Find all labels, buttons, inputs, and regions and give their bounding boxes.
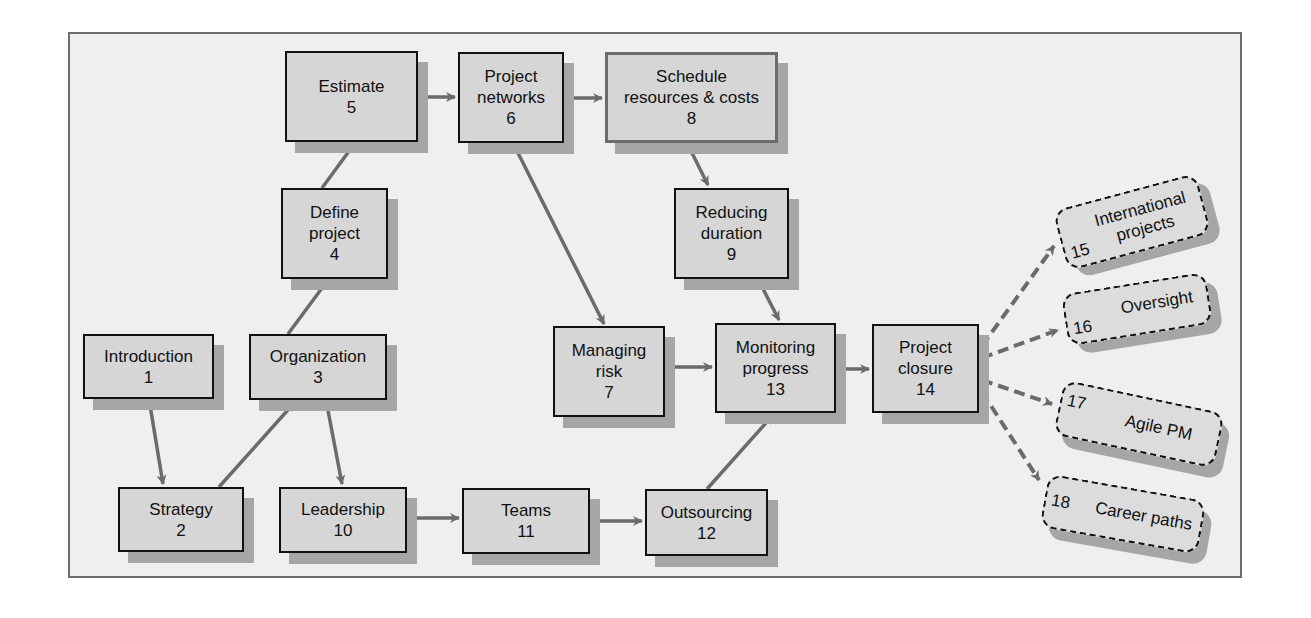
edge-3-4: [288, 280, 328, 334]
node-introduction: Introduction 1: [83, 334, 214, 399]
node-label: Organization: [270, 346, 366, 367]
node-label-line-2: closure: [898, 358, 953, 379]
edge-14-15: [982, 246, 1054, 346]
node-label-line-1: Reducing: [696, 202, 768, 223]
node-label-line-2: networks: [477, 87, 545, 108]
node-label: Introduction: [104, 346, 193, 367]
node-number: 10: [334, 520, 353, 541]
node-label-line-1: Project: [899, 337, 952, 358]
node-number: 12: [697, 523, 716, 544]
node-teams: Teams 11: [462, 488, 590, 554]
node-number: 11: [517, 521, 535, 542]
node-outsourcing: Outsourcing 12: [645, 489, 768, 556]
node-label-line-2: risk: [596, 361, 622, 382]
node-number: 1: [144, 367, 153, 388]
node-number: 9: [727, 244, 736, 265]
edge-9-13: [758, 279, 779, 320]
node-number: 5: [347, 97, 356, 118]
node-number: 16: [1072, 316, 1094, 339]
edge-4-5: [322, 143, 355, 188]
node-label: Leadership: [301, 499, 385, 520]
node-label-line-1: Project: [485, 66, 538, 87]
node-label-line-2: project: [309, 223, 360, 244]
node-number: 15: [1069, 239, 1092, 263]
node-define-project: Define project 4: [281, 188, 388, 279]
node-project-closure: Project closure 14: [872, 324, 979, 413]
node-monitoring-progress: Monitoring progress 13: [715, 323, 836, 413]
node-organization: Organization 3: [249, 334, 387, 400]
node-label: Agile PM: [1123, 411, 1194, 445]
node-label-line-2: resources & costs: [624, 87, 759, 108]
node-project-networks: Project networks 6: [458, 52, 564, 143]
node-number: 3: [313, 367, 322, 388]
node-label: Teams: [501, 500, 551, 521]
node-label-line-1: Monitoring: [736, 337, 815, 358]
node-number: 2: [176, 520, 185, 541]
edge-6-7: [513, 143, 604, 324]
node-label: Estimate: [318, 76, 384, 97]
node-label-line-2: duration: [701, 223, 762, 244]
node-number: 13: [766, 379, 785, 400]
edge-3-10: [326, 400, 342, 484]
node-label: Outsourcing: [661, 502, 753, 523]
node-number: 7: [604, 382, 613, 403]
node-number: 8: [687, 108, 696, 129]
edge-12-13: [707, 415, 773, 489]
node-leadership: Leadership 10: [279, 487, 407, 553]
node-label-line-1: Schedule: [656, 66, 727, 87]
node-estimate: Estimate 5: [285, 51, 418, 142]
node-label-line-1: Managing: [572, 340, 647, 361]
node-label-line-1: Define: [310, 202, 359, 223]
node-number: 6: [506, 108, 515, 129]
node-number: 18: [1050, 490, 1072, 513]
node-label: Oversight: [1119, 287, 1194, 318]
edge-14-17: [982, 380, 1052, 404]
node-label: Strategy: [149, 499, 212, 520]
edge-14-18: [982, 392, 1039, 480]
edge-8-9: [687, 143, 708, 185]
node-label: Career paths: [1094, 498, 1194, 535]
node-label-line-2: progress: [742, 358, 808, 379]
node-number: 14: [916, 379, 935, 400]
node-schedule-resources-costs: Schedule resources & costs 8: [605, 52, 778, 143]
node-strategy: Strategy 2: [118, 487, 244, 552]
edge-14-16: [982, 330, 1058, 358]
node-number: 4: [330, 244, 339, 265]
node-reducing-duration: Reducing duration 9: [674, 188, 789, 279]
node-managing-risk: Managing risk 7: [553, 326, 665, 417]
edge-1-2: [149, 399, 163, 484]
edge-2-3: [219, 402, 295, 487]
node-number: 17: [1065, 391, 1088, 414]
